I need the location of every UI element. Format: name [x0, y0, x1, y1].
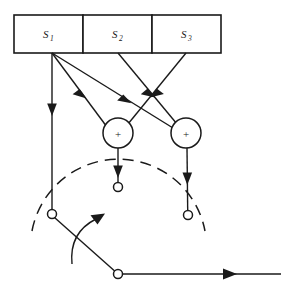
adder-group: + +: [103, 118, 201, 148]
switch-pivot[interactable]: [114, 270, 123, 279]
contact-right[interactable]: [184, 211, 193, 220]
contact-group: [48, 183, 193, 220]
arrowhead-adder-left-down: [113, 166, 123, 179]
register-row: S 1 S 2 S 3: [14, 15, 221, 53]
rotation-arrow-tip: [91, 214, 106, 225]
rotation-arrow-curve: [72, 219, 96, 264]
register-box-s3[interactable]: [152, 15, 221, 53]
adder-right-plus-symbol: +: [183, 128, 189, 140]
contact-middle[interactable]: [114, 183, 123, 192]
register-label-s1: S: [43, 28, 49, 40]
arrowhead-s1-down: [47, 104, 57, 117]
register-box-s2[interactable]: [83, 15, 152, 53]
register-sublabel-s3: 3: [187, 34, 192, 43]
adder-left-plus-symbol: +: [115, 128, 121, 140]
arrowhead-adder-right-down: [183, 173, 193, 186]
register-cell-s3[interactable]: S 3: [152, 15, 221, 53]
register-sublabel-s1: 1: [50, 34, 54, 43]
register-cell-s1[interactable]: S 1: [14, 15, 83, 53]
register-label-s2: S: [112, 28, 118, 40]
output-branch: [114, 269, 282, 280]
line-s2-to-adder-right: [118, 53, 177, 124]
adder-left[interactable]: +: [103, 118, 133, 148]
register-sublabel-s2: 2: [119, 34, 123, 43]
diagram-canvas: S 1 S 2 S 3: [0, 0, 289, 297]
rotation-arrow: [72, 214, 105, 265]
line-s3-to-adder-left: [128, 53, 186, 124]
arrowhead-s1-to-adder-left: [73, 89, 87, 99]
register-cell-s2[interactable]: S 2: [83, 15, 152, 53]
arrowhead-output: [223, 269, 237, 280]
register-box-s1[interactable]: [14, 15, 83, 53]
register-label-s3: S: [181, 28, 187, 40]
shift-register-diagram: S 1 S 2 S 3: [0, 0, 289, 297]
arrowhead-s1-to-adder-right: [117, 94, 131, 103]
adder-right[interactable]: +: [171, 118, 201, 148]
